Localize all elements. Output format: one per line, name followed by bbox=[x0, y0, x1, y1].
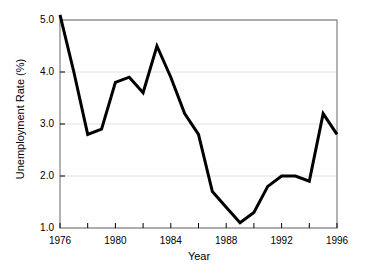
chart-container: Unemployment Rate (%) Year 1.02.03.04.05… bbox=[0, 0, 366, 275]
series-line-unemployment-rate bbox=[60, 15, 337, 223]
data-series bbox=[60, 15, 337, 223]
axis-ticks bbox=[60, 72, 337, 228]
plot-area bbox=[0, 0, 366, 275]
